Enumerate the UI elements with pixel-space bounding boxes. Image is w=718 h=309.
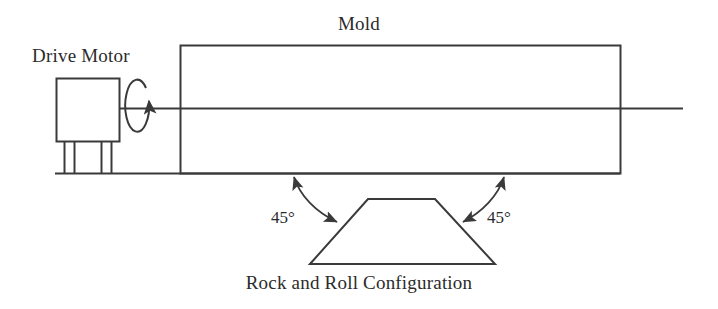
rotation-arrow	[125, 80, 149, 132]
angle-label-left: 45°	[271, 208, 295, 228]
drive-motor-label: Drive Motor	[32, 45, 130, 67]
angle-arc-left	[294, 177, 337, 222]
mold-label: Mold	[0, 13, 718, 35]
configuration-caption: Rock and Roll Configuration	[0, 272, 718, 294]
rock-and-roll-molding-diagram: Drive Motor Mold 45° 45° Rock and Roll C…	[0, 0, 718, 309]
angle-label-right: 45°	[487, 208, 511, 228]
motor-legs	[65, 141, 112, 173]
rock-and-roll-trapezoid	[310, 199, 495, 264]
drive-motor-box	[57, 79, 120, 142]
